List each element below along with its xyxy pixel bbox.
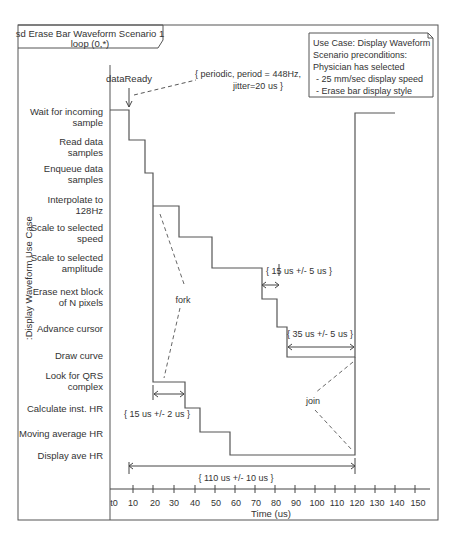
state-label: samples [68,174,104,185]
tick-label: 80 [271,498,281,508]
tick-label: t0 [110,498,118,508]
tick-label: 10 [128,498,138,508]
tick-label: 100 [309,498,324,508]
constraint-scale: { 15 us +/- 5 us } [266,266,332,276]
event-constraint: jitter=20 us } [232,81,283,91]
state-label: Wait for incoming [30,106,103,117]
timeline-main [110,110,153,206]
note-line-1: Use Case: Display Waveform [313,38,430,48]
note-line-5: - Erase bar display style [316,86,412,96]
tick-label: 140 [389,498,404,508]
note-line-3: Physician has selected [313,62,405,72]
state-label: samples [68,147,104,158]
tick-label: 40 [190,498,200,508]
constraint-draw: { 35 us +/- 5 us } [287,329,353,339]
tick-label: 20 [150,498,160,508]
note-line-2: Scenario preconditions: [313,50,407,60]
state-label: Interpolate to [48,194,103,205]
lifeline-label: :Display Waveform Use Case [23,216,34,340]
state-label: Look for QRS [45,370,103,381]
fork-line [164,308,180,378]
state-label: Enqueue data [44,163,104,174]
axis-label: Time (us) [251,508,291,519]
state-label: Moving average HR [19,428,103,439]
join-line [315,410,352,450]
axis-tick-labels: t0 10 20 30 40 50 60 70 80 90 100 110 12… [110,498,425,508]
fork-label: fork [175,295,191,305]
tick-label: 50 [211,498,221,508]
state-label: amplitude [62,263,103,274]
state-label: 128Hz [76,205,104,216]
tick-label: 120 [349,498,364,508]
event-constraint: { periodic, period = 448Hz, [195,69,301,79]
constraint-total: { 110 us +/- 10 us } [198,473,273,483]
join-label: join [305,396,320,406]
timeline-branch-display [153,113,395,357]
state-label: Read data [59,136,104,147]
state-label: of N pixels [59,297,104,308]
constraint-qrs: { 15 us +/- 2 us } [124,409,190,419]
frame-loop: loop (0,*) [71,38,110,49]
tick-label: 150 [410,498,425,508]
tick-label: 30 [169,498,179,508]
state-label: Erase next block [33,286,103,297]
state-label: speed [77,233,103,244]
state-label: Advance cursor [37,323,103,334]
join-line [315,362,353,393]
tick-label: 110 [330,498,344,508]
state-label: Scale to selected [31,252,103,263]
state-label: sample [72,117,103,128]
state-label: Calculate inst. HR [27,403,103,414]
state-label: Display ave HR [38,450,104,461]
timing-diagram: sd Erase Bar Waveform Scenario 1 loop (0… [0,0,455,545]
tick-label: 130 [369,498,384,508]
state-label: complex [68,381,104,392]
tick-label: 60 [231,498,241,508]
event-label: dataReady [106,73,152,84]
tick-label: 70 [251,498,261,508]
tick-label: 90 [291,498,301,508]
state-label: Draw curve [55,350,103,361]
note-line-4: - 25 mm/sec display speed [316,74,423,84]
state-label: Scale to selected [31,222,103,233]
fork-line [160,214,184,284]
